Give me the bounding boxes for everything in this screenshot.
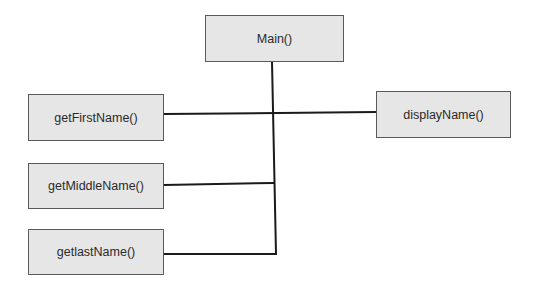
node-main: Main() [205,15,344,62]
diagram-canvas: Main() getFirstName() getMiddleName() ge… [0,0,536,292]
node-displayname-label: displayName() [403,108,484,122]
node-getlastname: getlastName() [28,229,164,275]
edge-getfirstname-displayname [164,112,376,114]
node-getmiddlename: getMiddleName() [28,163,164,209]
node-getmiddlename-label: getMiddleName() [48,179,144,193]
node-main-label: Main() [257,32,292,46]
node-getfirstname: getFirstName() [28,94,164,141]
trunk-line [272,62,276,254]
edge-getmiddlename [164,183,274,185]
node-displayname: displayName() [376,91,511,138]
node-getfirstname-label: getFirstName() [54,111,137,125]
node-getlastname-label: getlastName() [57,245,136,259]
